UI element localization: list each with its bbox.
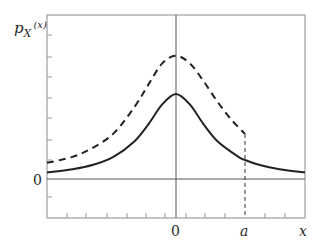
y-zero-label: 0 xyxy=(33,172,42,188)
x-axis-label: x xyxy=(299,223,307,239)
y-axis-label: pX(x) xyxy=(14,19,47,40)
dashed-truncated-density-curve xyxy=(47,56,245,163)
chart: pX(x) 0 0 a x xyxy=(0,0,322,242)
x-cutoff-label-a: a xyxy=(240,223,248,239)
x-zero-label: 0 xyxy=(171,223,180,239)
